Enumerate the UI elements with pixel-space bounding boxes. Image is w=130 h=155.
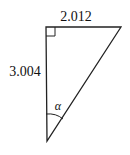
- angle-arc: [46, 114, 63, 119]
- triangle-diagram: 2.012 3.004 α: [0, 0, 130, 155]
- left-side-label: 3.004: [9, 64, 41, 79]
- right-angle-marker: [46, 27, 55, 36]
- top-side-label: 2.012: [60, 9, 92, 24]
- right-triangle: [46, 27, 121, 141]
- angle-label: α: [55, 99, 62, 113]
